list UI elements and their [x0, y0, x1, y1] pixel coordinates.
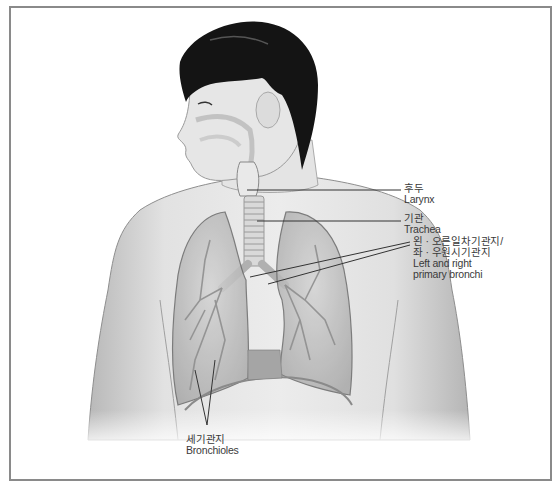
bronchi-label: 왼 · 오른일차기관지/ 좌 · 우원시기관지 Left and right p… — [413, 236, 503, 280]
larynx-label: 후두 Larynx — [404, 183, 434, 205]
trachea-label: 기관 Trachea — [404, 213, 441, 235]
bronchi-label-en-2: primary bronchi — [413, 269, 503, 280]
bronchioles-label: 세기관지 Bronchioles — [186, 434, 239, 456]
bronchioles-label-en: Bronchioles — [186, 445, 239, 456]
larynx-label-en: Larynx — [404, 194, 434, 205]
trachea-label-en: Trachea — [404, 224, 441, 235]
